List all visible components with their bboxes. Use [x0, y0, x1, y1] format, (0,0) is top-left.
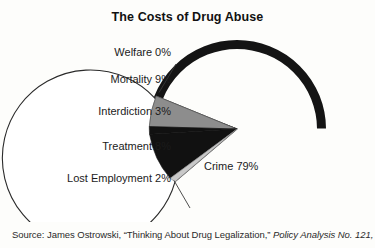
pie-svg — [0, 22, 375, 222]
pie-label-interdiction: Interdiction 3% — [98, 105, 171, 117]
pie-label-treatment: Treatment 8% — [102, 140, 171, 152]
pie-label-crime: Crime 79% — [204, 160, 258, 172]
source-note-publication: Policy Analysis No. 121, — [273, 229, 373, 240]
pie-chart-figure: The Costs of Drug Abuse Welfare 0% Morta… — [0, 0, 375, 248]
pie-chart-plot — [0, 22, 375, 222]
pie-label-welfare: Welfare 0% — [114, 46, 171, 58]
source-note-text: Source: James Ostrowski, “Thinking About… — [12, 229, 273, 240]
pie-label-mortality: Mortality 9% — [110, 73, 171, 85]
pie-label-lost-employment: Lost Employment 2% — [67, 172, 171, 184]
source-note: Source: James Ostrowski, “Thinking About… — [12, 229, 373, 240]
leader-line-lost-employment — [174, 181, 190, 209]
pie-shadow-rim — [237, 41, 325, 217]
